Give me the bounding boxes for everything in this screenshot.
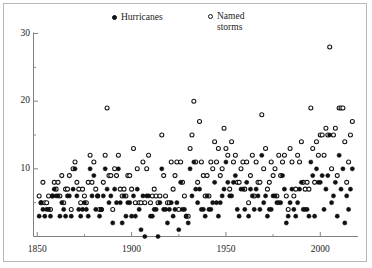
data-point-named-storm: [115, 174, 119, 178]
data-point-named-storm: [265, 187, 269, 191]
data-point-hurricane: [284, 221, 288, 225]
data-point-named-storm: [162, 174, 166, 178]
data-point-hurricane: [299, 180, 303, 184]
data-point-named-storm: [216, 147, 220, 151]
data-point-hurricane: [62, 207, 66, 211]
data-point-hurricane: [182, 207, 186, 211]
data-point-named-storm: [331, 133, 335, 137]
data-point-hurricane: [139, 228, 143, 232]
data-point-named-storm: [79, 201, 83, 205]
data-point-named-storm: [141, 160, 145, 164]
data-point-named-storm: [224, 147, 228, 151]
data-point-hurricane: [69, 214, 73, 218]
data-point-hurricane: [297, 187, 301, 191]
data-point-named-storm: [73, 160, 77, 164]
data-point-named-storm: [169, 160, 173, 164]
data-point-hurricane: [116, 167, 120, 171]
data-point-named-storm: [188, 147, 192, 151]
data-point-named-storm: [218, 174, 222, 178]
data-point-named-storm: [258, 180, 262, 184]
data-point-named-storm: [324, 126, 328, 130]
data-point-hurricane: [173, 207, 177, 211]
data-point-hurricane: [260, 153, 264, 157]
data-point-hurricane: [337, 153, 341, 157]
data-point-hurricane: [196, 201, 200, 205]
data-point-hurricane: [243, 207, 247, 211]
data-point-hurricane: [84, 207, 88, 211]
y-tick-label: 10: [8, 163, 30, 173]
hurricane-scatter-figure: Hurricanes Named storms 1020301850190019…: [0, 0, 372, 268]
data-point-named-storm: [88, 153, 92, 157]
data-point-hurricane: [329, 201, 333, 205]
data-point-named-storm: [130, 187, 134, 191]
data-point-hurricane: [307, 214, 311, 218]
data-point-hurricane: [154, 207, 158, 211]
data-point-named-storm: [90, 180, 94, 184]
data-point-named-storm: [128, 174, 132, 178]
data-point-hurricane: [137, 207, 141, 211]
data-point-hurricane: [96, 194, 100, 198]
data-point-hurricane: [160, 167, 164, 171]
data-point-named-storm: [145, 167, 149, 171]
data-point-named-storm: [69, 207, 73, 211]
data-point-hurricane: [213, 180, 217, 184]
data-point-hurricane: [286, 214, 290, 218]
data-point-named-storm: [277, 153, 281, 157]
data-point-named-storm: [231, 160, 235, 164]
data-point-named-storm: [122, 187, 126, 191]
data-point-hurricane: [37, 214, 41, 218]
data-point-named-storm: [350, 119, 354, 123]
data-point-hurricane: [328, 133, 332, 137]
data-point-hurricane: [177, 228, 181, 232]
data-point-named-storm: [131, 147, 135, 151]
data-point-hurricane: [326, 174, 330, 178]
data-point-hurricane: [341, 167, 345, 171]
data-point-hurricane: [346, 207, 350, 211]
data-point-named-storm: [67, 174, 71, 178]
data-point-hurricane: [188, 167, 192, 171]
data-point-named-storm: [182, 194, 186, 198]
data-point-named-storm: [41, 180, 45, 184]
data-point-hurricane: [86, 214, 90, 218]
data-point-hurricane: [90, 194, 94, 198]
data-point-hurricane: [109, 194, 113, 198]
data-point-hurricane: [222, 187, 226, 191]
data-point-hurricane: [79, 214, 83, 218]
data-point-named-storm: [190, 133, 194, 137]
data-point-named-storm: [309, 106, 313, 110]
data-point-named-storm: [105, 106, 109, 110]
data-point-named-storm: [347, 160, 351, 164]
data-point-hurricane: [224, 160, 228, 164]
data-point-hurricane: [171, 214, 175, 218]
data-point-named-storm: [192, 99, 196, 103]
data-point-named-storm: [307, 187, 311, 191]
data-point-hurricane: [343, 221, 347, 225]
data-point-hurricane: [220, 194, 224, 198]
data-point-named-storm: [198, 119, 202, 123]
data-point-named-storm: [298, 160, 302, 164]
data-point-named-storm: [286, 207, 290, 211]
data-point-hurricane: [345, 194, 349, 198]
data-point-named-storm: [292, 194, 296, 198]
data-point-hurricane: [175, 201, 179, 205]
data-point-hurricane: [60, 201, 64, 205]
data-point-hurricane: [290, 187, 294, 191]
data-point-hurricane: [67, 194, 71, 198]
data-point-hurricane: [48, 214, 52, 218]
data-point-named-storm: [267, 180, 271, 184]
data-point-hurricane: [190, 194, 194, 198]
data-point-named-storm: [247, 201, 251, 205]
data-point-hurricane: [186, 221, 190, 225]
data-point-named-storm: [65, 187, 69, 191]
data-point-hurricane: [216, 214, 220, 218]
data-point-named-storm: [316, 153, 320, 157]
data-point-hurricane: [269, 207, 273, 211]
data-point-named-storm: [171, 187, 175, 191]
data-point-hurricane: [313, 214, 317, 218]
data-point-named-storm: [273, 167, 277, 171]
data-point-hurricane: [113, 187, 117, 191]
data-point-hurricane: [339, 187, 343, 191]
data-point-named-storm: [313, 180, 317, 184]
data-point-named-storm: [330, 167, 334, 171]
data-point-hurricane: [233, 174, 237, 178]
